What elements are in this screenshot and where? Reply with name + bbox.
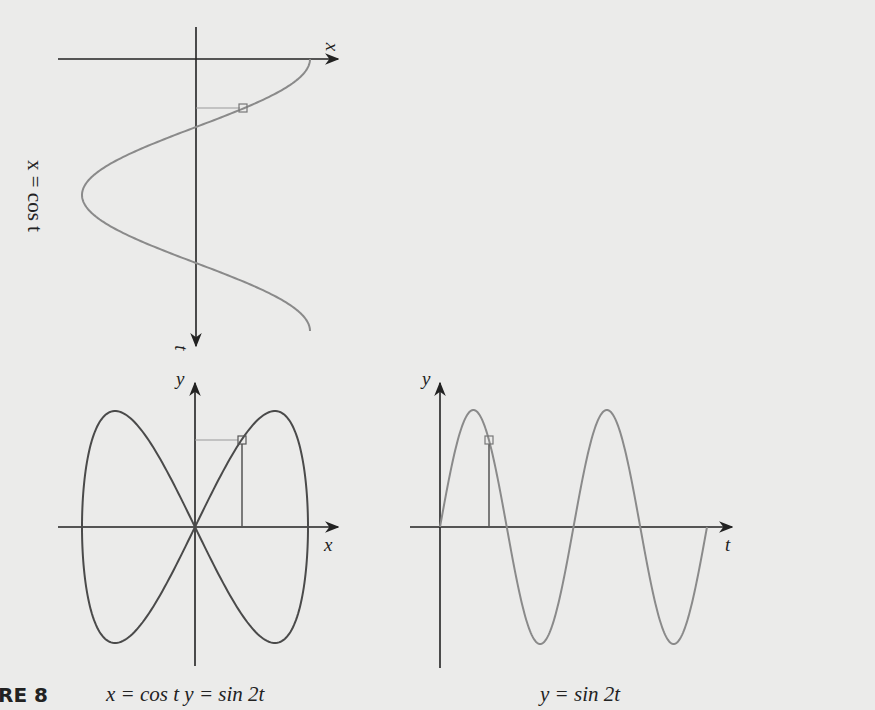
rotated-cos-label: x = cos t [22,160,47,232]
caption-sine: y = sin 2t [540,682,620,707]
figure-canvas [0,0,875,710]
right-y-axis-label: y [422,368,430,390]
top-t-axis-label: t [170,345,192,350]
figure-number: RE 8 [0,683,48,707]
right-t-axis-label: t [725,534,730,556]
top-plot [58,27,338,346]
sine-plot [410,383,732,668]
left-x-axis-label: x [324,534,332,556]
caption-parametric: x = cos t y = sin 2t [106,682,264,707]
parametric-plot [58,383,338,666]
top-x-axis-label: x [321,43,343,51]
left-y-axis-label: y [176,368,184,390]
